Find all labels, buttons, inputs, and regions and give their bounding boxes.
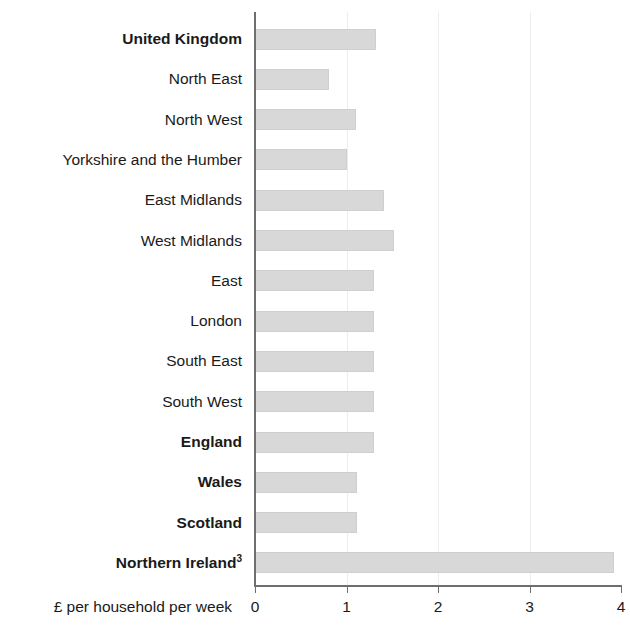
y-axis-line xyxy=(254,12,256,585)
category-label-column: United KingdomNorth EastNorth WestYorksh… xyxy=(0,12,242,585)
plot-area xyxy=(255,12,621,585)
category-label: United Kingdom xyxy=(0,30,242,48)
category-label: West Midlands xyxy=(0,232,242,250)
category-label: Wales xyxy=(0,473,242,491)
bar xyxy=(255,512,357,533)
bar xyxy=(255,190,384,211)
bar xyxy=(255,552,614,573)
bar xyxy=(255,69,329,90)
category-label-text: West Midlands xyxy=(141,232,242,249)
category-label: Northern Ireland3 xyxy=(0,554,242,572)
x-axis-tick-label: 2 xyxy=(434,598,443,616)
category-label-text: South West xyxy=(162,393,242,410)
category-label: North East xyxy=(0,70,242,88)
x-axis-title: £ per household per week xyxy=(54,598,232,616)
bar xyxy=(255,230,394,251)
bar xyxy=(255,432,374,453)
category-label-text: Scotland xyxy=(177,514,242,531)
bar xyxy=(255,109,356,130)
x-axis-tick-label: 3 xyxy=(525,598,534,616)
gridline xyxy=(530,12,531,585)
gridline xyxy=(438,12,439,585)
x-axis-tick-label: 0 xyxy=(251,598,260,616)
bar-chart: United KingdomNorth EastNorth WestYorksh… xyxy=(0,0,630,635)
category-label-text: London xyxy=(190,312,242,329)
category-label-text: Wales xyxy=(198,473,242,490)
category-label-text: United Kingdom xyxy=(122,30,242,47)
category-label-text: East xyxy=(211,272,242,289)
category-label: Scotland xyxy=(0,514,242,532)
bar xyxy=(255,149,347,170)
category-label: North West xyxy=(0,111,242,129)
category-label-text: North East xyxy=(169,70,242,87)
x-axis-tick xyxy=(255,586,256,593)
category-label-text: East Midlands xyxy=(145,191,242,208)
bar xyxy=(255,391,374,412)
bar xyxy=(255,29,376,50)
gridline xyxy=(347,12,348,585)
category-label: South West xyxy=(0,393,242,411)
footnote-marker: 3 xyxy=(236,553,242,564)
x-axis-tick-label: 1 xyxy=(342,598,351,616)
bar xyxy=(255,351,374,372)
category-label: Yorkshire and the Humber xyxy=(0,151,242,169)
category-label: East xyxy=(0,272,242,290)
category-label: East Midlands xyxy=(0,191,242,209)
category-label-text: Northern Ireland xyxy=(116,554,237,571)
category-label-text: North West xyxy=(165,111,242,128)
x-axis-tick xyxy=(438,586,439,593)
category-label-text: Yorkshire and the Humber xyxy=(63,151,243,168)
category-label-text: England xyxy=(181,433,242,450)
category-label-text: South East xyxy=(166,352,242,369)
category-label: South East xyxy=(0,352,242,370)
category-label: England xyxy=(0,433,242,451)
bar xyxy=(255,472,357,493)
x-axis-tick xyxy=(621,586,622,593)
x-axis-tick xyxy=(347,586,348,593)
x-axis-tick xyxy=(530,586,531,593)
category-label: London xyxy=(0,312,242,330)
bar xyxy=(255,270,374,291)
x-axis-tick-label: 4 xyxy=(617,598,626,616)
bar xyxy=(255,311,374,332)
